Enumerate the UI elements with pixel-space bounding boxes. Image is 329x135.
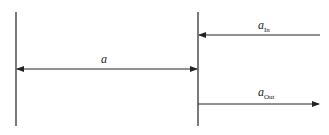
label-a-in-sub: In	[264, 26, 270, 34]
diagram-canvas: a aIn aOut	[0, 0, 329, 135]
label-a-out: aOut	[258, 85, 275, 101]
label-a: a	[101, 52, 107, 66]
label-a-in: aIn	[258, 18, 270, 34]
label-a-out-sub: Out	[264, 93, 275, 101]
